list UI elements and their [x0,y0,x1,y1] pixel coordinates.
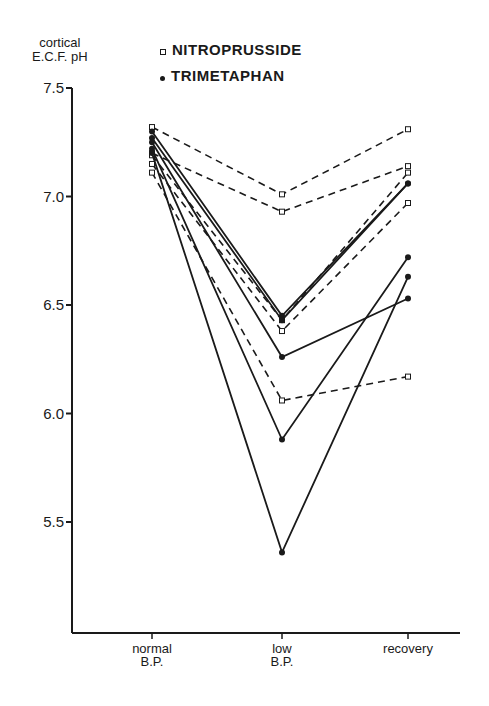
y-tick-label: 7.0 [43,188,64,205]
solid-series-line [152,142,408,357]
filled-circle-marker-icon [279,437,285,443]
filled-circle-marker-icon [279,549,285,555]
y-tick-label: 7.5 [43,79,64,96]
open-square-marker-icon [150,161,155,166]
nitroprusside-series [150,125,411,197]
dashed-series-line [152,164,408,331]
open-square-marker-icon [406,127,411,132]
open-square-marker-icon [406,164,411,169]
solid-series-line [152,138,408,320]
y-tick-label: 5.5 [43,513,64,530]
open-square-marker-icon [280,192,285,197]
filled-circle-marker-icon [149,139,155,145]
open-square-marker-icon [280,398,285,403]
x-tick-label: B.P. [271,654,294,669]
trimetaphan-series [149,139,411,360]
nitroprusside-series [150,161,411,333]
filled-circle-marker-icon [149,128,155,134]
y-tick-label: 6.0 [43,405,64,422]
filled-circle-marker-icon [279,354,285,360]
series-layer [149,125,411,556]
open-square-marker-icon [280,329,285,334]
nitroprusside-series [150,170,411,403]
dashed-series-line [152,155,408,320]
filled-circle-marker-icon [149,150,155,156]
dashed-series-line [152,127,408,194]
open-square-marker-icon [280,209,285,214]
open-square-marker-icon [406,170,411,175]
open-square-marker-icon [406,374,411,379]
chart-plot-area: 7.57.06.56.05.5normalB.P.lowB.P.recovery [0,0,489,706]
open-square-marker-icon [150,170,155,175]
solid-series-line [152,131,408,315]
filled-circle-marker-icon [405,180,411,186]
filled-circle-marker-icon [405,295,411,301]
x-tick-label: recovery [383,641,433,656]
y-tick-label: 6.5 [43,296,64,313]
open-square-marker-icon [406,201,411,206]
filled-circle-marker-icon [279,317,285,323]
axes: 7.57.06.56.05.5normalB.P.lowB.P.recovery [43,79,460,669]
filled-circle-marker-icon [405,274,411,280]
x-tick-label: B.P. [141,654,164,669]
filled-circle-marker-icon [405,254,411,260]
